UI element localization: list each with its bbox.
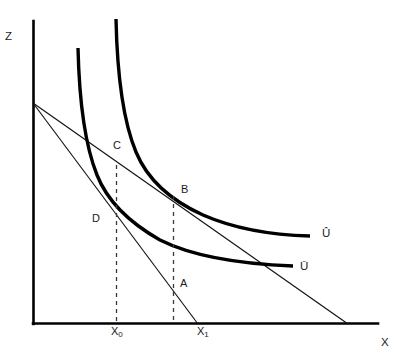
x-axis-label: X xyxy=(381,337,389,349)
z-axis-label: Z xyxy=(5,31,12,43)
point-label-d: D xyxy=(92,213,100,224)
indifference-curve-figure: Z X A B C D Û Ū X0 X1 xyxy=(0,0,407,363)
point-label-c: C xyxy=(113,140,121,151)
figure-canvas xyxy=(0,0,407,363)
tick-label-x1: X1 xyxy=(197,326,209,339)
point-label-b: B xyxy=(181,184,188,195)
tick-label-x0-sub: 0 xyxy=(118,330,122,339)
upper-indifference-curve xyxy=(116,19,310,236)
budget-line-flat xyxy=(33,103,348,324)
tick-label-x1-sub: 1 xyxy=(204,330,208,339)
curve-label-u-hat: Û xyxy=(322,228,330,240)
curve-label-u-bar: Ū xyxy=(300,261,308,273)
point-label-a: A xyxy=(180,278,187,289)
tick-label-x0: X0 xyxy=(111,326,123,339)
